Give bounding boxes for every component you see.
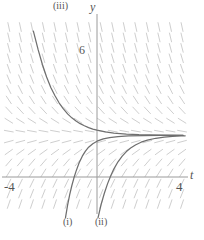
slope-mark xyxy=(135,44,137,53)
slope-mark xyxy=(77,64,80,72)
slope-mark xyxy=(76,96,81,104)
slope-mark xyxy=(111,54,114,63)
slope-mark xyxy=(76,179,80,187)
slope-mark xyxy=(42,54,45,63)
slope-mark xyxy=(100,54,103,63)
slope-mark xyxy=(108,140,117,142)
slope-mark xyxy=(169,189,172,197)
slope-mark xyxy=(100,189,103,197)
slope-mark xyxy=(146,44,148,53)
slope-mark xyxy=(30,169,35,177)
slope-mark xyxy=(31,33,33,42)
slope-mark xyxy=(17,159,23,166)
slope-mark xyxy=(87,169,92,177)
slope-mark xyxy=(133,159,139,166)
slope-mark xyxy=(169,75,172,83)
slope-mark xyxy=(155,149,162,154)
slope-mark xyxy=(168,86,172,94)
slope-mark xyxy=(169,33,171,42)
slope-mark xyxy=(123,75,126,83)
slope-mark xyxy=(169,200,172,209)
slope-mark xyxy=(123,44,125,53)
slope-mark xyxy=(88,75,91,83)
slope-mark xyxy=(108,130,117,132)
slope-mark xyxy=(88,179,92,187)
slope-mark xyxy=(87,107,93,114)
slope-mark xyxy=(157,64,160,72)
slope-mark xyxy=(65,44,67,53)
slope-mark xyxy=(30,64,33,72)
slope-mark xyxy=(6,107,12,114)
slope-mark xyxy=(19,189,22,197)
slope-mark xyxy=(169,64,172,72)
slope-mark xyxy=(178,149,185,154)
slope-mark xyxy=(135,33,137,42)
y-tick-label-6: 6 xyxy=(79,44,85,56)
slope-mark xyxy=(31,23,33,32)
slope-mark xyxy=(42,75,45,83)
slope-mark xyxy=(76,86,80,94)
slope-mark xyxy=(156,107,162,114)
slope-mark xyxy=(31,54,34,63)
slope-mark xyxy=(97,118,105,123)
slope-mark xyxy=(179,107,185,114)
slope-mark xyxy=(8,44,10,53)
slope-mark xyxy=(111,86,115,94)
slope-mark xyxy=(41,86,45,94)
slope-mark xyxy=(123,189,126,197)
slope-mark xyxy=(166,130,175,132)
slope-mark xyxy=(157,179,161,187)
slope-mark xyxy=(53,169,58,177)
slope-mark xyxy=(40,107,46,114)
slope-mark xyxy=(43,23,45,32)
slope-mark xyxy=(112,23,114,32)
slope-mark xyxy=(180,96,185,104)
slope-mark xyxy=(155,118,163,123)
slope-mark xyxy=(88,64,91,72)
slope-mark xyxy=(28,140,37,142)
slope-mark xyxy=(16,130,25,132)
slope-mark xyxy=(144,107,150,114)
slope-mark xyxy=(64,159,70,166)
slope-mark xyxy=(29,96,34,104)
slope-mark xyxy=(146,33,148,42)
slope-mark xyxy=(145,169,150,177)
slope-mark xyxy=(53,189,56,197)
slope-mark xyxy=(54,23,56,32)
slope-field-group xyxy=(4,23,186,209)
slope-mark xyxy=(122,179,126,187)
slope-mark xyxy=(180,169,185,177)
slope-mark xyxy=(111,179,115,187)
slope-mark xyxy=(123,54,126,63)
slope-mark xyxy=(86,118,94,123)
slope-mark xyxy=(51,140,60,142)
slope-mark xyxy=(169,179,173,187)
slope-mark xyxy=(88,189,91,197)
slope-mark xyxy=(110,96,115,104)
slope-mark xyxy=(53,75,56,83)
slope-mark xyxy=(64,96,69,104)
slope-mark xyxy=(168,159,174,166)
slope-mark xyxy=(180,75,183,83)
slope-mark xyxy=(77,33,79,42)
slope-mark xyxy=(155,140,164,142)
slope-mark xyxy=(123,33,125,42)
slope-mark xyxy=(167,118,175,123)
slope-mark xyxy=(28,118,36,123)
slope-mark xyxy=(52,159,58,166)
slope-mark xyxy=(40,118,48,123)
slope-mark xyxy=(100,33,102,42)
slope-mark xyxy=(181,54,184,63)
slope-mark xyxy=(41,179,45,187)
slope-mark xyxy=(110,159,116,166)
slope-mark xyxy=(112,33,114,42)
slope-mark xyxy=(178,130,187,132)
slope-mark xyxy=(77,23,79,32)
slope-mark xyxy=(4,140,13,142)
slope-mark xyxy=(111,64,114,72)
slope-mark xyxy=(158,54,161,63)
slope-mark xyxy=(120,130,129,132)
slope-mark xyxy=(123,64,126,72)
slope-mark xyxy=(39,140,48,142)
slope-mark xyxy=(62,140,71,142)
